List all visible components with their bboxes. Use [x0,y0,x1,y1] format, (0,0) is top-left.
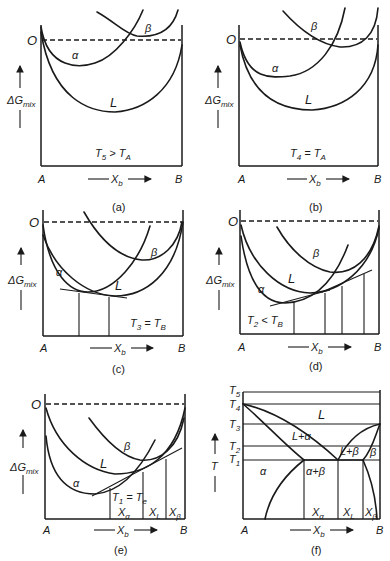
caption: (b) [309,201,322,213]
condition-label: T4 = TA [290,147,326,162]
condition-label: T1 = Te [112,491,147,506]
origin-label: O [29,215,39,230]
t3-label: T3 [229,418,241,433]
x-axis-label: Xb [116,524,129,539]
beta-label: β [312,247,320,259]
caption: (e) [114,544,127,556]
x-axis-left-label: A [39,342,47,354]
beta-label: β [144,22,152,34]
x-axis-label: Xb [113,342,126,357]
x-axis-left-label: A [237,173,245,185]
caption: (f) [311,544,321,556]
eutectic-free-energy-figure: O ΔGmix α β L T5 > TA A B Xb (a) O ΔGmix… [0,0,390,561]
origin-label: O [226,32,236,47]
alpha-label: α [258,283,265,295]
panel-e: O ΔGmix α β L T1 = Te Xα XL Xβ A B Xb (e… [9,394,187,556]
x-axis-left-label: A [237,341,245,353]
x-axis-right-label: B [376,524,383,536]
region-alpha: α [260,465,267,477]
y-axis-label: ΔGmix [7,274,37,289]
panel-a: O ΔGmix α β L T5 > TA A B Xb (a) [6,10,182,213]
y-axis-label: T [211,460,219,472]
liquid-label: L [305,92,312,107]
caption: (d) [309,360,322,372]
x-axis-right-label: B [180,524,187,536]
region-liquid-alpha: L+α [292,430,312,442]
y-axis-label: ΔGmix [205,274,235,289]
panel-d: O ΔGmix α β L T2 < TB A B Xb (d) [205,210,381,372]
x-axis-label: Xb [110,173,123,188]
x-axis-right-label: B [374,173,381,185]
beta-label: β [310,20,318,32]
x-axis-left-label: A [37,173,45,185]
liquid-label: L [288,271,295,286]
x-axis-left-label: A [42,524,50,536]
panel-b: O ΔGmix α β L T4 = TA A B Xb (b) [204,8,381,213]
x-axis-left-label: A [240,524,248,536]
panel-c: O ΔGmix α β L T3 = TB A B Xb (c) [7,210,185,375]
y-axis-label: ΔGmix [204,94,234,109]
origin-label: O [228,214,238,229]
condition-label: T3 = TB [130,317,166,332]
region-liquid-beta: L+β [340,445,360,457]
y-axis-label: ΔGmix [9,461,39,476]
liquid-label: L [115,278,122,293]
y-axis-label: ΔGmix [6,94,36,109]
t5-label: T5 [229,384,241,399]
beta-label: β [123,440,131,452]
x-axis-label: Xb [310,341,323,356]
origin-label: O [31,397,41,412]
t4-label: T4 [229,398,241,413]
condition-label: T2 < TB [247,314,283,329]
region-liquid: L [318,407,325,422]
alpha-label: α [72,49,79,61]
beta-label: β [150,246,158,258]
liquid-label: L [100,456,107,471]
alpha-label: α [73,477,80,489]
x-axis-label: Xb [308,173,321,188]
region-alpha-beta: α+β [306,465,326,477]
x-axis-label: Xb [312,524,325,539]
caption: (a) [112,201,125,213]
x-axis-right-label: B [178,342,185,354]
origin-label: O [27,33,37,48]
t1-label: T1 [229,453,240,468]
x-axis-right-label: B [374,341,381,353]
region-beta: β [369,446,377,458]
x-axis-right-label: B [175,173,182,185]
caption: (c) [112,363,125,375]
liquid-label: L [110,95,117,110]
condition-label: T5 > TA [95,147,131,162]
panel-f-phase-diagram: T5 T4 T3 T2 T1 T L L+α L+β α α+β β Xα XL… [211,384,383,556]
alpha-label: α [272,62,279,74]
